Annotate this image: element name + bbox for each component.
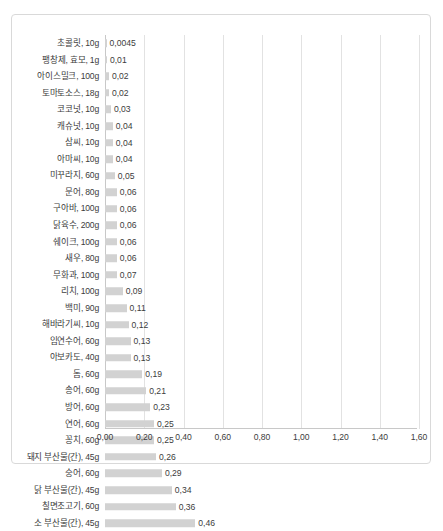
bar-value-label: 0,06 xyxy=(117,204,137,213)
bar-value-label: 0,34 xyxy=(172,486,192,495)
category-label: 돔, 60g xyxy=(12,370,105,379)
bar-track: 0,13 xyxy=(105,333,432,350)
bar xyxy=(105,370,142,378)
bar-value-label: 0,13 xyxy=(131,337,151,346)
bar xyxy=(105,519,195,527)
bar xyxy=(105,470,162,478)
category-label: 코코넛, 10g xyxy=(12,105,105,114)
bar-value-label: 0,19 xyxy=(142,370,162,379)
bar-value-label: 0,26 xyxy=(156,453,176,462)
bar-track: 0,06 xyxy=(105,234,432,251)
bar-track: 0,06 xyxy=(105,184,432,201)
bar-track: 0,04 xyxy=(105,151,432,168)
bar-row: 미꾸라지, 60g0,05 xyxy=(12,167,432,184)
category-label: 리치, 100g xyxy=(12,287,105,296)
bar-row: 리치, 100g0,09 xyxy=(12,283,432,300)
bar-row: 토마토소스, 18g0,02 xyxy=(12,85,432,102)
category-label: 미꾸라지, 60g xyxy=(12,171,105,180)
bar-track: 0,04 xyxy=(105,118,432,135)
category-label: 쉐이크, 100g xyxy=(12,238,105,247)
bar xyxy=(105,503,176,511)
bar xyxy=(105,387,146,395)
category-label: 아마씨, 10g xyxy=(12,155,105,164)
bar xyxy=(105,354,131,362)
bar-row: 코코넛, 10g0,03 xyxy=(12,101,432,118)
category-label: 꽁치, 60g xyxy=(12,436,105,445)
bar-track: 0,21 xyxy=(105,382,432,399)
category-label: 백미, 90g xyxy=(12,304,105,313)
x-tick-label: 1,20 xyxy=(332,433,349,442)
bar xyxy=(105,486,172,494)
bar-track: 0,06 xyxy=(105,200,432,217)
x-tick-label: 0,80 xyxy=(254,433,271,442)
bar-value-label: 0,07 xyxy=(117,271,137,280)
bar-row: 아보카도, 40g0,13 xyxy=(12,349,432,366)
bar-track: 0,03 xyxy=(105,101,432,118)
bar-value-label: 0,09 xyxy=(123,287,143,296)
chart-container: 초콜릿, 10g0,0045팽창제, 효모, 1g0,01아이스밀크, 100g… xyxy=(11,14,431,464)
bar xyxy=(105,238,117,246)
category-label: 아이스밀크, 100g xyxy=(12,72,105,81)
bar-value-label: 0,46 xyxy=(195,519,215,528)
x-tick-label: 1,60 xyxy=(411,433,428,442)
bar xyxy=(105,122,113,130)
category-label: 칠면조고기, 60g xyxy=(12,502,105,511)
bar-value-label: 0,23 xyxy=(150,403,170,412)
bar xyxy=(105,420,154,428)
bar-value-label: 0,21 xyxy=(146,386,166,395)
bar-value-label: 0,06 xyxy=(117,221,137,230)
bar-track: 0,36 xyxy=(105,498,432,515)
bar-track: 0,12 xyxy=(105,316,432,333)
x-tick-label: 1,40 xyxy=(371,433,388,442)
category-label: 돼지 부산물(간), 45g xyxy=(12,453,105,462)
bar-row: 방어, 60g0,23 xyxy=(12,399,432,416)
category-label: 새우, 80g xyxy=(12,254,105,263)
bar-value-label: 0,36 xyxy=(176,502,196,511)
bar xyxy=(105,288,123,296)
bar xyxy=(105,255,117,263)
bar-track: 0,0045 xyxy=(105,35,432,52)
bar xyxy=(105,139,113,147)
x-tick-label: 0,40 xyxy=(175,433,192,442)
bar-row: 새우, 80g0,06 xyxy=(12,250,432,267)
bar-value-label: 0,05 xyxy=(115,171,135,180)
bar-track: 0,19 xyxy=(105,366,432,383)
bar-row: 숭어, 60g0,29 xyxy=(12,465,432,482)
bar-track: 0,25 xyxy=(105,416,432,433)
bar-value-label: 0,13 xyxy=(131,353,151,362)
bar-row: 칠면조고기, 60g0,36 xyxy=(12,498,432,515)
bar xyxy=(105,453,156,461)
bar-track: 0,09 xyxy=(105,283,432,300)
bar-row: 소 부산물(간), 45g0,46 xyxy=(12,515,432,531)
bar xyxy=(105,188,117,196)
category-label: 토마토소스, 18g xyxy=(12,89,105,98)
category-label: 닭 부산물(간), 45g xyxy=(12,486,105,495)
bar-track: 0,11 xyxy=(105,300,432,317)
bar-value-label: 0,0045 xyxy=(107,39,136,48)
bar-value-label: 0,04 xyxy=(113,155,133,164)
category-label: 구아바, 100g xyxy=(12,204,105,213)
bar-row: 무화과, 100g0,07 xyxy=(12,267,432,284)
bar-row: 닭육수, 200g0,06 xyxy=(12,217,432,234)
category-label: 송어, 60g xyxy=(12,386,105,395)
category-label: 닭육수, 200g xyxy=(12,221,105,230)
category-label: 방어, 60g xyxy=(12,403,105,412)
bar xyxy=(105,222,117,230)
bar xyxy=(105,321,129,329)
bar-track: 0,46 xyxy=(105,515,432,531)
bar-value-label: 0,06 xyxy=(117,254,137,263)
bar-row: 팽창제, 효모, 1g0,01 xyxy=(12,52,432,69)
x-tick-label: 0,20 xyxy=(136,433,153,442)
bar-row: 돔, 60g0,19 xyxy=(12,366,432,383)
bar-track: 0,02 xyxy=(105,68,432,85)
bar xyxy=(105,205,117,213)
bar-track: 0,13 xyxy=(105,349,432,366)
bar-value-label: 0,11 xyxy=(127,304,146,313)
category-label: 캐슈넛, 10g xyxy=(12,122,105,131)
bar-rows: 초콜릿, 10g0,0045팽창제, 효모, 1g0,01아이스밀크, 100g… xyxy=(12,35,432,531)
bar-value-label: 0,04 xyxy=(113,138,133,147)
category-label: 삼씨, 10g xyxy=(12,138,105,147)
bar xyxy=(105,404,150,412)
plot-area: 초콜릿, 10g0,0045팽창제, 효모, 1g0,01아이스밀크, 100g… xyxy=(12,15,430,463)
category-label: 팽창제, 효모, 1g xyxy=(12,56,105,65)
